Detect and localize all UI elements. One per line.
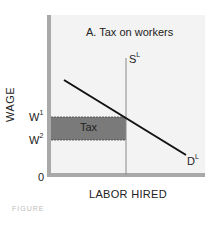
tick-w2: W2 bbox=[29, 134, 43, 146]
tick-w1: W1 bbox=[29, 111, 43, 123]
demand-label: DL bbox=[187, 155, 199, 167]
y-axis-label: WAGE bbox=[4, 87, 16, 122]
chart-title: A. Tax on workers bbox=[86, 26, 173, 38]
x-axis-label: LABOR HIRED bbox=[89, 188, 167, 200]
supply-label: SL bbox=[129, 53, 140, 65]
tax-label: Tax bbox=[80, 121, 97, 133]
figure-caption: FIGURE bbox=[12, 205, 44, 211]
tick-zero: 0 bbox=[38, 171, 44, 183]
